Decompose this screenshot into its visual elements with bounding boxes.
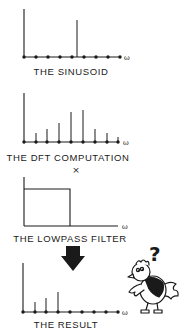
sample-dot: [45, 140, 48, 143]
sample-dot: [82, 55, 85, 58]
panel-dft: ωTHE DFT COMPUTATION: [7, 93, 130, 163]
sample-dot: [80, 310, 83, 313]
sample-dot: [22, 55, 25, 58]
sample-dot: [56, 310, 59, 313]
sample-dot: [81, 140, 84, 143]
sample-dot: [105, 140, 108, 143]
sample-dot: [106, 55, 109, 58]
sample-dot: [21, 310, 24, 313]
sample-dot: [44, 310, 47, 313]
sample-dot: [92, 310, 95, 313]
panel-title: THE LOWPASS FILTER: [13, 233, 126, 244]
panel-sinusoid: ωTHE SINUSOID: [22, 9, 130, 77]
panel-title: THE RESULT: [34, 319, 98, 330]
sample-dot: [57, 140, 60, 143]
sample-dot: [70, 55, 73, 58]
sample-dot: [69, 140, 72, 143]
multiply-symbol: ×: [72, 165, 80, 175]
panel-title: THE DFT COMPUTATION: [7, 152, 130, 163]
panel-result: ωTHE RESULT: [21, 263, 128, 330]
sample-dot: [104, 310, 107, 313]
filter-passband: [24, 189, 70, 226]
confused-bird-icon: [128, 260, 178, 313]
sample-dot: [118, 55, 121, 58]
sample-dot: [58, 55, 61, 58]
omega-axis-label: ω: [123, 139, 129, 147]
omega-axis-label: ω: [122, 309, 128, 317]
sample-dot: [116, 310, 119, 313]
panel-title: THE SINUSOID: [34, 66, 109, 77]
dft-filtering-diagram: ωTHE SINUSOIDωTHE DFT COMPUTATIONωTHE LO…: [0, 0, 186, 335]
sample-dot: [94, 55, 97, 58]
sample-dot: [116, 140, 119, 143]
arrow-down-icon: [61, 246, 85, 271]
question-mark: ?: [149, 242, 161, 266]
panel-lowpass: ωTHE LOWPASS FILTER: [13, 177, 128, 244]
sample-dot: [46, 55, 49, 58]
sample-dot: [34, 140, 37, 143]
sample-dot: [22, 140, 25, 143]
omega-axis-label: ω: [124, 54, 130, 62]
sample-dot: [33, 310, 36, 313]
sample-dot: [68, 310, 71, 313]
omega-axis-label: ω: [122, 223, 128, 231]
sample-dot: [34, 55, 37, 58]
sample-dot: [93, 140, 96, 143]
